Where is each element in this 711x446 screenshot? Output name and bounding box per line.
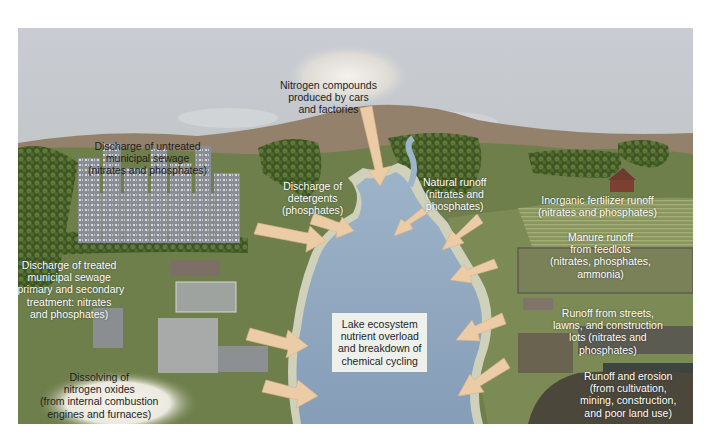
label-untreated-sewage: Discharge of untreated municipal sewage … — [88, 140, 207, 177]
label-natural-runoff: Natural runoff (nitrates and phosphates) — [423, 176, 486, 213]
label-runoff-erosion: Runoff and erosion (from cultivation, mi… — [580, 370, 676, 419]
label-treated-sewage: Discharge of treated municipal sewage (p… — [18, 259, 124, 320]
nutrient-pollution-illustration: Nitrogen compounds produced by cars and … — [18, 28, 693, 424]
label-streets-runoff: Runoff from streets, lawns, and construc… — [553, 307, 663, 356]
label-nitrogen-compounds-air: Nitrogen compounds produced by cars and … — [280, 79, 377, 116]
lake-ecosystem-box: Lake ecosystem nutrient overload and bre… — [332, 313, 427, 372]
label-manure-runoff: Manure runoff from feedlots (nitrates, p… — [550, 231, 651, 280]
label-inorganic-fertilizer: Inorganic fertilizer runoff (nitrates an… — [538, 194, 657, 218]
label-detergents: Discharge of detergents (phosphates) — [282, 180, 343, 217]
label-nitrogen-oxides: Dissolving of nitrogen oxides (from inte… — [40, 371, 158, 420]
